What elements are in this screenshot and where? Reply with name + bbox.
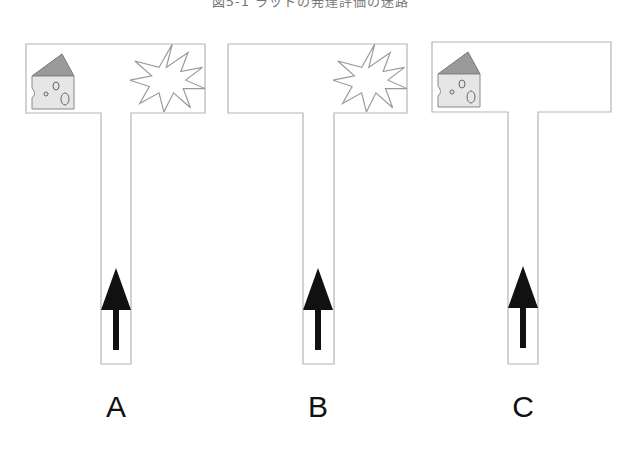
maze-c [432,42,611,364]
maze-b [228,44,407,364]
maze-a [26,44,205,364]
maze-label-a: A [96,390,136,424]
t-maze-diagram [0,0,621,451]
maze-label-c: C [503,390,543,424]
maze-label-b: B [298,390,338,424]
